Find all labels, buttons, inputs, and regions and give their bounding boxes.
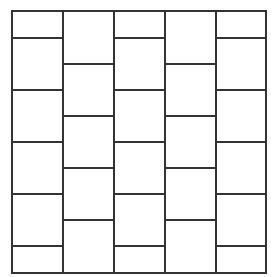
brick-grid-diagram — [0, 0, 275, 277]
column-divider — [62, 10, 64, 274]
cell-divider — [215, 37, 267, 39]
column-divider — [164, 10, 166, 274]
cell-divider — [164, 63, 217, 65]
cell-divider — [62, 167, 115, 169]
cell-divider — [215, 193, 267, 195]
cell-divider — [11, 193, 64, 195]
cell-divider — [11, 89, 64, 91]
cell-divider — [113, 89, 166, 91]
cell-divider — [113, 37, 166, 39]
cell-divider — [215, 89, 267, 91]
cell-divider — [11, 245, 64, 247]
cell-divider — [62, 219, 115, 221]
cell-divider — [113, 245, 166, 247]
cell-divider — [215, 245, 267, 247]
cell-divider — [164, 167, 217, 169]
frame-top — [11, 10, 267, 12]
cell-divider — [164, 219, 217, 221]
frame-bottom — [11, 272, 267, 274]
cell-divider — [11, 141, 64, 143]
cell-divider — [62, 63, 115, 65]
cell-divider — [215, 141, 267, 143]
cell-divider — [11, 37, 64, 39]
cell-divider — [164, 115, 217, 117]
cell-divider — [113, 141, 166, 143]
cell-divider — [113, 193, 166, 195]
cell-divider — [62, 115, 115, 117]
